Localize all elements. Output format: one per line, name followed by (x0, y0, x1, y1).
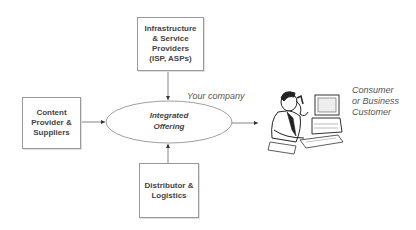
integrated-offering-label: Integrated Offering (131, 110, 207, 132)
person-at-computer-icon (268, 92, 343, 154)
content-provider-box: Content Provider & Suppliers (22, 97, 81, 149)
your-company-label: Your company (187, 91, 245, 101)
distributor-logistics-box: Distributor & Logistics (139, 163, 199, 218)
infrastructure-providers-label: Infrastructure & Service Providers (ISP,… (144, 24, 196, 64)
customer-label: Consumer or Business Customer (352, 85, 399, 118)
infrastructure-providers-box: Infrastructure & Service Providers (ISP,… (137, 17, 204, 71)
content-provider-label: Content Provider & Suppliers (31, 108, 71, 138)
distributor-logistics-label: Distributor & Logistics (145, 181, 194, 201)
